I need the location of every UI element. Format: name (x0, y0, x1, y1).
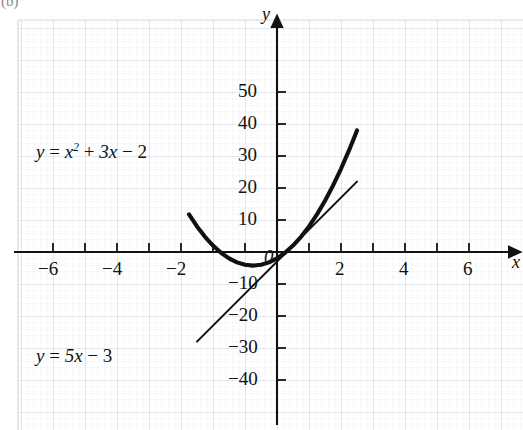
parabola-equation-label: y = x2 + 3x − 2 (36, 140, 147, 163)
y-axis-name: y (262, 4, 270, 25)
parabola-eq-plus: + (84, 141, 95, 162)
grid-major (18, 20, 523, 430)
y-tick-label-10: 10 (238, 208, 257, 230)
parabola-eq-power: 2 (73, 140, 79, 154)
graph-figure: (b) (0, 0, 523, 430)
y-tick-label-minus40: −40 (228, 368, 258, 390)
line-eq-term: 5x (65, 345, 83, 366)
parabola-eq-const: 2 (137, 141, 147, 162)
line-eq-const: 3 (103, 345, 113, 366)
parabola-eq-term2: 3x (99, 141, 117, 162)
line-equation-label: y = 5x − 3 (36, 345, 112, 367)
parabola-eq-minus: − (122, 141, 133, 162)
parabola-eq-var: x (65, 141, 73, 162)
y-tick-label-30: 30 (238, 144, 257, 166)
x-tick-label-2: 2 (335, 258, 345, 280)
y-tick-label-minus20: −20 (228, 304, 258, 326)
x-tick-label-minus4: −4 (102, 258, 122, 280)
y-tick-label-40: 40 (238, 112, 257, 134)
x-tick-label-6: 6 (463, 258, 473, 280)
line-eq-minus: − (87, 345, 98, 366)
line-eq-equals: = (49, 345, 60, 366)
parabola-eq-equals: = (49, 141, 60, 162)
x-tick-label-4: 4 (399, 258, 409, 280)
x-axis-name: x (512, 252, 520, 273)
y-tick-label-minus30: −30 (228, 336, 258, 358)
x-tick-label-minus6: −6 (38, 258, 58, 280)
y-tick-label-50: 50 (238, 80, 257, 102)
y-tick-label-20: 20 (238, 176, 257, 198)
x-tick-label-minus2: −2 (166, 258, 186, 280)
parabola-eq-lhs: y (36, 141, 44, 162)
origin-label: 0 (264, 246, 274, 268)
line-eq-lhs: y (36, 345, 44, 366)
y-tick-label-minus10: −10 (228, 272, 258, 294)
